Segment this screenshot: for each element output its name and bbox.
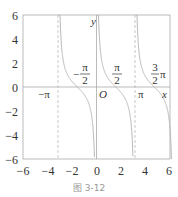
x-tick-label: 4 bbox=[142, 164, 148, 178]
pi-label: π bbox=[138, 88, 144, 100]
y-tick-label: 6 bbox=[12, 9, 18, 23]
cot-branch bbox=[59, 15, 95, 157]
fraction-numerator: π bbox=[82, 61, 88, 73]
x-tick-label: −6 bbox=[17, 164, 30, 178]
y-axis-label: y bbox=[90, 15, 96, 27]
three-half-pi-label: 3 2 π bbox=[151, 61, 166, 86]
y-tick-label: −2 bbox=[5, 105, 18, 119]
y-tick-label: 0 bbox=[12, 81, 18, 95]
y-tick-label: −4 bbox=[5, 129, 18, 143]
origin-label: O bbox=[99, 88, 107, 100]
y-tick-label: 2 bbox=[12, 57, 18, 71]
half-pi-label: π 2 bbox=[112, 61, 122, 86]
pi-suffix: π bbox=[160, 68, 166, 80]
x-axis-label: x bbox=[161, 88, 167, 100]
x-tick-label: −4 bbox=[42, 164, 55, 178]
minus-sign: − bbox=[73, 68, 79, 80]
x-tick-label: 0 bbox=[94, 164, 100, 178]
fraction-denominator: 2 bbox=[82, 74, 88, 86]
y-tick-labels: 6 4 2 0 −2 −4 −6 bbox=[5, 9, 18, 167]
neg-half-pi-label: − π 2 bbox=[73, 61, 90, 86]
figure-caption: 图 3-12 bbox=[73, 183, 105, 193]
cot-chart: 6 4 2 0 −2 −4 −6 −6 −4 −2 0 2 4 6 y x O … bbox=[0, 0, 178, 197]
x-tick-label: 2 bbox=[118, 164, 124, 178]
fraction-numerator: π bbox=[114, 61, 120, 73]
x-tick-label: −2 bbox=[66, 164, 79, 178]
neg-pi-label: −π bbox=[38, 88, 50, 100]
x-tick-labels: −6 −4 −2 0 2 4 6 bbox=[17, 164, 172, 178]
fraction-numerator: 3 bbox=[152, 61, 158, 73]
fraction-denominator: 2 bbox=[114, 74, 120, 86]
x-tick-label: 6 bbox=[166, 164, 172, 178]
fraction-denominator: 2 bbox=[152, 74, 158, 86]
y-tick-label: 4 bbox=[12, 33, 18, 47]
